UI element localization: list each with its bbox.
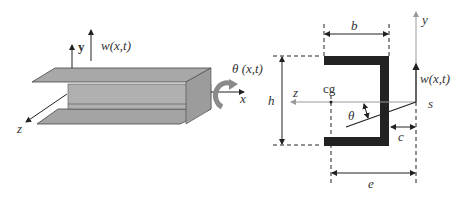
theta-arrow xyxy=(364,104,368,118)
diagram-canvas: y w(x,t) z x θ (x,t) b h z y w(x,t) s cg… xyxy=(0,0,462,197)
x-axis-label: x xyxy=(239,91,246,106)
h-label: h xyxy=(268,93,275,108)
y-axis-label-right: y xyxy=(420,12,428,27)
z-axis-label-right: z xyxy=(292,85,298,100)
shear-center-label: s xyxy=(428,96,433,111)
rotation-label: θ (x,t) xyxy=(232,61,263,76)
beam-3d xyxy=(32,68,211,124)
channel-section xyxy=(324,56,389,146)
centroid-label: cg xyxy=(323,81,336,96)
y-axis-label: y xyxy=(78,39,85,54)
e-label: e xyxy=(368,176,374,191)
theta-label: θ xyxy=(348,108,355,123)
deflection-label-left: w(x,t) xyxy=(101,38,131,53)
z-axis-label-left: z xyxy=(16,121,22,136)
c-label: c xyxy=(398,129,404,144)
b-label: b xyxy=(351,18,358,33)
deflection-label-right: w(x,t) xyxy=(420,71,450,86)
